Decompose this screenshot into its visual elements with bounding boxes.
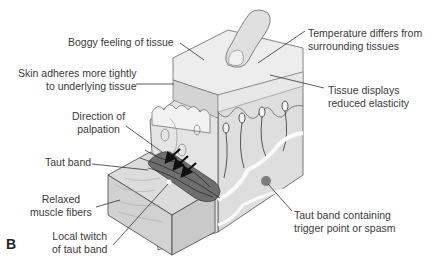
label-skin-adheres-line2: to underlying tissue <box>18 80 136 93</box>
label-direction-line1: Direction of <box>72 110 125 123</box>
twitch-star <box>167 180 172 185</box>
label-temperature-line1: Temperature differs from <box>308 27 422 40</box>
label-direction-line2: palpation <box>72 123 125 136</box>
label-twitch-line2: of taut band <box>52 243 107 256</box>
label-direction-of-palpation: Direction of palpation <box>72 110 125 135</box>
label-relaxed-muscle-fibers: Relaxed muscle fibers <box>30 193 92 218</box>
label-temperature: Temperature differs from surrounding tis… <box>308 27 422 52</box>
label-relaxed-line2: muscle fibers <box>30 206 92 219</box>
label-local-twitch: Local twitch of taut band <box>52 230 107 255</box>
label-trigger-line1: Taut band containing <box>294 209 396 222</box>
label-twitch-line1: Local twitch <box>52 230 107 243</box>
label-temperature-line2: surrounding tissues <box>308 40 422 53</box>
label-relaxed-line1: Relaxed <box>30 193 92 206</box>
label-skin-adheres: Skin adheres more tightly to underlying … <box>18 67 136 92</box>
label-reduced-elasticity: Tissue displays reduced elasticity <box>328 84 409 109</box>
label-taut-band: Taut band <box>45 156 91 169</box>
label-boggy-feeling: Boggy feeling of tissue <box>68 36 174 49</box>
panel-letter: B <box>6 236 16 252</box>
trigger-point <box>261 176 271 186</box>
label-trigger-point: Taut band containing trigger point or sp… <box>294 209 396 234</box>
label-elasticity-line1: Tissue displays <box>328 84 409 97</box>
label-trigger-line2: trigger point or spasm <box>294 222 396 235</box>
label-elasticity-line2: reduced elasticity <box>328 97 409 110</box>
label-skin-adheres-line1: Skin adheres more tightly <box>18 67 136 80</box>
